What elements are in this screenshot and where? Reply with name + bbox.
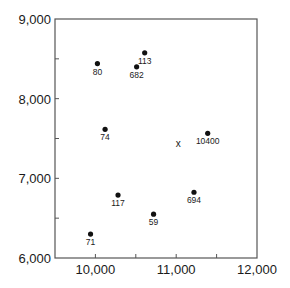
y-tick-label: 9,000 <box>18 12 51 27</box>
data-point: 682 <box>130 64 144 80</box>
y-tick-label: 8,000 <box>18 92 51 107</box>
point-marker-icon <box>205 131 210 136</box>
data-point: 71 <box>86 232 96 248</box>
data-point: 117 <box>111 192 125 208</box>
point-label: 113 <box>138 56 152 66</box>
x-tick-label: 11,000 <box>157 262 196 277</box>
point-label: 59 <box>149 217 159 227</box>
data-point: 113 <box>138 50 152 66</box>
cross-marker-icon: x <box>176 138 181 149</box>
point-marker-icon <box>134 64 139 69</box>
point-label: 117 <box>111 198 125 208</box>
scatter-chart: 10,00011,00012,0006,0007,0008,0009,000 8… <box>0 0 290 288</box>
data-point: 74 <box>100 127 110 143</box>
data-point: 694 <box>187 190 201 206</box>
x-tick-label: 10,000 <box>76 262 116 277</box>
point-label: 74 <box>100 132 110 142</box>
annotations: x <box>176 138 181 149</box>
x-tick-label: 12,000 <box>237 262 277 277</box>
point-marker-icon <box>151 212 156 217</box>
point-label: 80 <box>93 67 103 77</box>
point-marker-icon <box>102 127 107 132</box>
axis-ticks <box>55 59 217 258</box>
data-point: 10400 <box>196 131 220 147</box>
data-point: 59 <box>149 212 159 228</box>
y-tick-label: 6,000 <box>18 251 51 266</box>
point-marker-icon <box>95 61 100 66</box>
point-label: 682 <box>130 70 144 80</box>
data-point: 80 <box>93 61 103 77</box>
axis-tick-labels: 10,00011,00012,0006,0007,0008,0009,000 <box>18 12 276 277</box>
point-marker-icon <box>88 232 93 237</box>
point-label: 694 <box>187 195 201 205</box>
y-tick-label: 7,000 <box>18 171 51 186</box>
point-marker-icon <box>191 190 196 195</box>
point-marker-icon <box>115 192 120 197</box>
point-label: 71 <box>86 237 96 247</box>
data-points: 8011368274104001176945971 <box>86 50 220 247</box>
point-marker-icon <box>142 50 147 55</box>
point-label: 10400 <box>196 136 220 146</box>
